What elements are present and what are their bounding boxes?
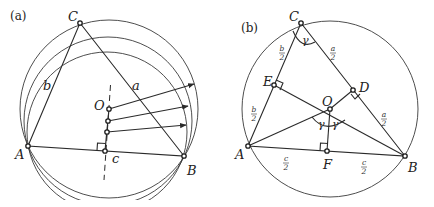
svg-text:c: c bbox=[284, 154, 289, 163]
frac-a-half-lower: a 2 bbox=[381, 110, 387, 128]
center-2 bbox=[106, 119, 110, 123]
svg-text:a: a bbox=[331, 44, 335, 53]
panel-a-label: (a) bbox=[10, 9, 27, 23]
point-a-b bbox=[246, 144, 250, 148]
side-c-label: c bbox=[112, 151, 120, 166]
panel-b-label: (b) bbox=[241, 21, 258, 35]
svg-text:2: 2 bbox=[283, 163, 289, 172]
svg-text:c: c bbox=[362, 158, 367, 167]
point-b bbox=[182, 154, 186, 158]
radius-arrow-3 bbox=[107, 125, 186, 132]
label-e: E bbox=[262, 74, 273, 89]
gamma-o-left: γ bbox=[318, 118, 325, 131]
point-d bbox=[351, 88, 355, 92]
point-a bbox=[26, 144, 30, 148]
label-b: B bbox=[186, 163, 197, 178]
center-3 bbox=[105, 130, 109, 134]
label-b-b: B bbox=[407, 160, 418, 175]
side-b-label: b bbox=[43, 78, 51, 93]
svg-text:2: 2 bbox=[251, 114, 257, 123]
segment-o-d bbox=[330, 90, 353, 109]
point-f bbox=[325, 149, 329, 153]
label-o: O bbox=[94, 98, 105, 113]
point-b-b bbox=[403, 154, 407, 158]
frac-b-half-lower: b 2 bbox=[251, 105, 257, 123]
svg-text:2: 2 bbox=[330, 53, 336, 62]
geometry-figure: (a) C A B O b a c bbox=[0, 0, 434, 207]
svg-text:b: b bbox=[280, 44, 285, 53]
label-o-b: O bbox=[322, 94, 333, 109]
panel-b: (b) C E D O A F B γ γ γ bbox=[234, 9, 418, 197]
svg-text:b: b bbox=[252, 105, 257, 114]
frac-c-half-right: c 2 bbox=[361, 158, 367, 176]
label-c-b: C bbox=[289, 9, 299, 24]
segment-o-f bbox=[327, 109, 330, 151]
frac-a-half-upper: a 2 bbox=[330, 44, 336, 62]
svg-text:2: 2 bbox=[381, 119, 387, 128]
midpoint-ab bbox=[103, 149, 107, 153]
gamma-c: γ bbox=[302, 34, 309, 47]
frac-b-half-upper: b 2 bbox=[279, 44, 285, 62]
svg-text:a: a bbox=[382, 110, 386, 119]
label-d: D bbox=[358, 80, 370, 95]
gamma-o-right: γ bbox=[332, 118, 339, 131]
label-c: C bbox=[68, 9, 78, 24]
point-o bbox=[107, 107, 111, 111]
point-c-b bbox=[299, 21, 303, 25]
label-a-b: A bbox=[234, 147, 244, 162]
point-c bbox=[78, 21, 82, 25]
side-a-label: a bbox=[132, 78, 140, 93]
svg-text:2: 2 bbox=[361, 167, 367, 176]
radius-arrow-2 bbox=[108, 106, 188, 121]
label-a: A bbox=[14, 147, 24, 162]
svg-text:2: 2 bbox=[279, 53, 285, 62]
radius-arrow-1 bbox=[109, 84, 194, 109]
panel-a: (a) C A B O b a c bbox=[10, 9, 198, 207]
label-f: F bbox=[322, 157, 333, 172]
frac-c-half-left: c 2 bbox=[283, 154, 289, 172]
